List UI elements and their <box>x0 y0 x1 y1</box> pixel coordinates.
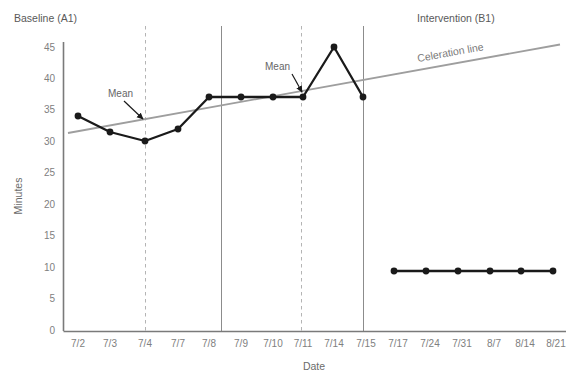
x-tick-2: 7/4 <box>138 338 152 349</box>
y-axis-title: Minutes <box>12 178 24 215</box>
data-point <box>391 268 398 275</box>
mean-annotation-2-label: Mean <box>265 61 290 72</box>
y-tick-40: 40 <box>44 73 56 84</box>
data-point <box>518 268 525 275</box>
data-point <box>423 268 430 275</box>
single-case-design-chart: 45 40 35 30 25 20 15 10 5 0 Minutes 7/2 … <box>0 0 581 382</box>
x-axis-title: Date <box>303 360 325 372</box>
data-point <box>107 129 114 136</box>
data-point <box>270 94 277 101</box>
axes-group <box>64 42 567 332</box>
data-point <box>487 268 494 275</box>
x-tick-14: 8/14 <box>515 338 535 349</box>
x-tick-15: 8/21 <box>546 338 566 349</box>
y-tick-35: 35 <box>44 104 56 115</box>
y-tick-25: 25 <box>44 167 56 178</box>
y-tick-45: 45 <box>44 42 56 53</box>
intervention-series <box>391 268 557 275</box>
data-point <box>175 126 182 133</box>
x-tick-6: 7/10 <box>263 338 283 349</box>
x-tick-5: 7/9 <box>234 338 248 349</box>
data-point <box>300 94 307 101</box>
x-tick-9: 7/15 <box>356 338 376 349</box>
y-tick-5: 5 <box>49 293 55 304</box>
data-point <box>206 94 213 101</box>
data-point <box>360 94 367 101</box>
data-point <box>550 268 557 275</box>
data-point <box>455 268 462 275</box>
data-point <box>142 138 149 145</box>
x-tick-11: 7/24 <box>420 338 440 349</box>
mean-annotation-1-arrow <box>124 101 143 119</box>
phase-lines-group <box>146 26 364 331</box>
intervention-phase-label: Intervention (B1) <box>417 12 495 24</box>
y-tick-15: 15 <box>44 230 56 241</box>
x-tick-7: 7/11 <box>294 338 313 349</box>
y-axis-ticks: 45 40 35 30 25 20 15 10 5 0 <box>44 42 56 336</box>
x-tick-10: 7/17 <box>388 338 408 349</box>
y-tick-10: 10 <box>44 262 56 273</box>
x-tick-3: 7/7 <box>171 338 185 349</box>
mean-annotation-2: Mean <box>265 61 302 92</box>
baseline-phase-label: Baseline (A1) <box>14 12 77 24</box>
chart-canvas: 45 40 35 30 25 20 15 10 5 0 Minutes 7/2 … <box>0 0 581 382</box>
mean-annotation-1: Mean <box>108 88 143 119</box>
x-tick-13: 8/7 <box>487 338 501 349</box>
x-tick-1: 7/3 <box>103 338 117 349</box>
y-tick-20: 20 <box>44 199 56 210</box>
x-tick-12: 7/31 <box>452 338 472 349</box>
data-point <box>75 113 82 120</box>
x-tick-8: 7/14 <box>324 338 344 349</box>
mean-annotation-1-label: Mean <box>108 88 133 99</box>
x-tick-0: 7/2 <box>71 338 85 349</box>
data-point <box>331 44 338 51</box>
y-tick-0: 0 <box>49 325 55 336</box>
x-tick-4: 7/8 <box>202 338 216 349</box>
x-axis-ticks: 7/2 7/3 7/4 7/7 7/8 7/9 7/10 7/11 7/14 7… <box>71 338 566 349</box>
mean-annotation-2-arrow <box>292 74 302 92</box>
y-tick-30: 30 <box>44 136 56 147</box>
celeration-line <box>68 45 560 134</box>
data-point <box>238 94 245 101</box>
